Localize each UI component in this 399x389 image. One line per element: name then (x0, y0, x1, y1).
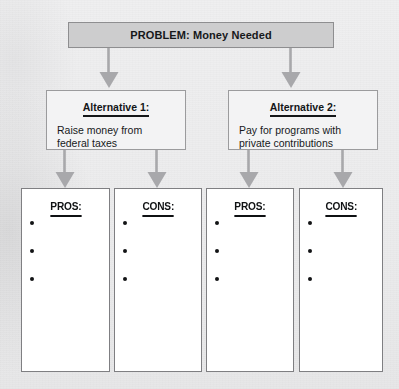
alternative-1-body: Raise money from federal taxes (55, 124, 177, 149)
alternative-1-pros-heading: PROS: (50, 200, 81, 217)
alternative-1-body-line-2: federal taxes (57, 137, 177, 150)
bullet-point (123, 221, 127, 225)
alternative-2-cons-bullet-list (308, 221, 312, 305)
problem-label: PROBLEM: Money Needed (130, 29, 271, 41)
alternative-2-pros-bullet-list (215, 221, 219, 305)
bullet-point (308, 221, 312, 225)
arrow-alternative-2-to-pros (236, 150, 262, 190)
alternative-1-cons-bullet-list (123, 221, 127, 305)
arrow-alternative-2-to-cons (330, 150, 356, 190)
arrow-alternative-1-to-pros (52, 150, 78, 190)
arrow-problem-to-alternative-1 (96, 48, 122, 90)
bullet-point (308, 277, 312, 281)
alternative-2-cons-heading: CONS: (325, 200, 357, 217)
bullet-point (30, 249, 34, 253)
alternative-2-cons-heading-wrap: CONS: (300, 196, 382, 217)
problem-box: PROBLEM: Money Needed (68, 22, 334, 48)
alternative-2-pros-heading-wrap: PROS: (207, 196, 293, 217)
alternative-2-heading: Alternative 2: (270, 101, 337, 117)
alternative-1-body-line-1: Raise money from (57, 124, 177, 137)
alternative-2-body: Pay for programs with private contributi… (237, 124, 369, 149)
arrow-problem-to-alternative-2 (278, 48, 304, 90)
alternative-2-pros-box: PROS: (206, 188, 294, 372)
alternative-1-heading: Alternative 1: (83, 101, 150, 117)
alternative-2-pros-heading: PROS: (234, 200, 265, 217)
alternative-1-pros-bullet-list (30, 221, 34, 305)
bullet-point (215, 249, 219, 253)
alternative-2-cons-box: CONS: (299, 188, 383, 372)
alternative-1-cons-box: CONS: (114, 188, 202, 372)
bullet-point (308, 249, 312, 253)
alternative-2-box: Alternative 2: Pay for programs with pri… (228, 90, 378, 150)
bullet-point (123, 249, 127, 253)
alternative-1-pros-heading-wrap: PROS: (22, 196, 109, 217)
alternative-2-body-line-1: Pay for programs with (239, 124, 369, 137)
alternative-2-body-line-2: private contributions (239, 137, 369, 150)
bullet-point (30, 221, 34, 225)
bullet-point (215, 221, 219, 225)
bullet-point (30, 277, 34, 281)
alternative-1-pros-box: PROS: (21, 188, 110, 372)
alternative-1-box: Alternative 1: Raise money from federal … (46, 90, 186, 150)
diagram-canvas: PROBLEM: Money Needed Alternative 1: Rai… (0, 0, 399, 389)
arrow-alternative-1-to-cons (144, 150, 170, 190)
bullet-point (123, 277, 127, 281)
alternative-1-cons-heading: CONS: (142, 200, 174, 217)
alternative-1-heading-wrap: Alternative 1: (55, 97, 177, 117)
alternative-2-heading-wrap: Alternative 2: (237, 97, 369, 117)
alternative-1-cons-heading-wrap: CONS: (115, 196, 201, 217)
bullet-point (215, 277, 219, 281)
